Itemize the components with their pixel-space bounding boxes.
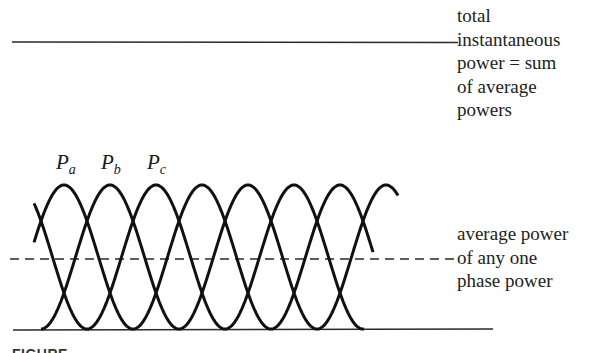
phase-a-symbol: P	[56, 150, 69, 174]
phase-a-subscript: a	[69, 162, 76, 177]
figure-caption-cropped: FIGURE	[12, 345, 68, 353]
phase-b-subscript: b	[114, 162, 121, 177]
phase-c-symbol: P	[147, 150, 160, 174]
phase-a-label: Pa	[56, 150, 76, 178]
phase-c-label: Pc	[147, 150, 166, 178]
phase-a-power-curve	[34, 185, 373, 329]
average-power-text-line: of any one	[457, 246, 568, 270]
phase-b-symbol: P	[101, 150, 114, 174]
phase-c-power-curve	[34, 185, 364, 329]
total-power-text-line: total	[457, 4, 560, 28]
average-power-annotation: average power of any one phase power	[457, 222, 568, 293]
average-power-text-line: average power	[457, 222, 568, 246]
total-power-line	[12, 42, 458, 43]
total-power-text-line: power = sum	[457, 51, 560, 75]
total-power-text-line: of average	[457, 75, 560, 99]
total-power-text-line: powers	[457, 98, 560, 122]
average-power-text-line: phase power	[457, 269, 568, 293]
total-power-annotation: total instantaneous power = sum of avera…	[457, 4, 560, 122]
phase-c-subscript: c	[160, 162, 166, 177]
phase-b-label: Pb	[101, 150, 121, 178]
total-power-text-line: instantaneous	[457, 28, 560, 52]
